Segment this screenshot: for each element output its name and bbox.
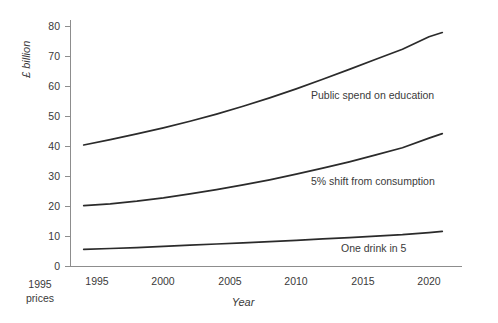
x-tick-label-2015: 2015 xyxy=(351,275,375,287)
x-tick-label-2000: 2000 xyxy=(151,275,175,287)
y-axis-ticks xyxy=(65,27,71,267)
y-tick-label-60: 60 xyxy=(48,80,60,92)
y-tick-label-70: 70 xyxy=(48,50,60,62)
y-tick-label-30: 30 xyxy=(48,170,60,182)
price-basis-note: 1995 prices xyxy=(26,278,54,304)
x-tick-label-2010: 2010 xyxy=(284,275,308,287)
chart-container: 0 10 20 30 40 50 60 70 80 1995 2000 2005… xyxy=(0,0,498,323)
price-basis-note-line2: prices xyxy=(26,292,54,304)
series-annotation-one-drink-in-5: One drink in 5 xyxy=(341,242,407,254)
y-tick-label-50: 50 xyxy=(48,110,60,122)
series-annotation-5-percent-shift-from-consumption: 5% shift from consumption xyxy=(311,175,435,187)
y-tick-label-80: 80 xyxy=(48,20,60,32)
price-basis-note-line1: 1995 xyxy=(28,278,52,290)
y-tick-label-0: 0 xyxy=(54,260,60,272)
y-axis-title: £ billion xyxy=(20,41,32,79)
y-tick-label-20: 20 xyxy=(48,200,60,212)
y-tick-label-40: 40 xyxy=(48,140,60,152)
y-tick-label-10: 10 xyxy=(48,230,60,242)
series-annotation-public-spend-on-education: Public spend on education xyxy=(311,89,434,101)
x-axis-tick-labels: 1995 2000 2005 2010 2015 2020 xyxy=(85,275,441,287)
series-line-5-percent-shift-from-consumption xyxy=(84,134,443,206)
x-tick-label-2005: 2005 xyxy=(218,275,242,287)
y-axis-tick-labels: 0 10 20 30 40 50 60 70 80 xyxy=(48,20,60,272)
line-chart: 0 10 20 30 40 50 60 70 80 1995 2000 2005… xyxy=(0,0,498,323)
x-tick-label-1995: 1995 xyxy=(85,275,109,287)
x-tick-label-2020: 2020 xyxy=(417,275,441,287)
x-axis-title: Year xyxy=(232,296,256,308)
